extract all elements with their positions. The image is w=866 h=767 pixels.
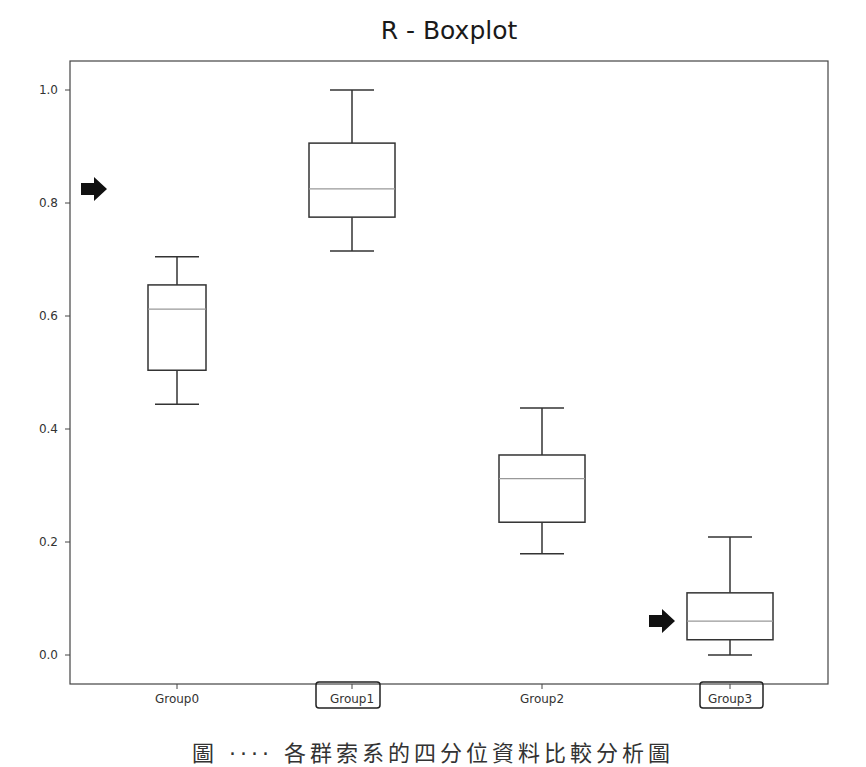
box-group1 (309, 90, 395, 251)
y-tick-label: 0.4 (39, 422, 58, 436)
y-tick-label: 0.0 (39, 648, 58, 662)
y-axis-ticks: 0.00.20.40.60.81.0 (39, 83, 70, 662)
y-tick-label: 0.2 (39, 535, 58, 549)
iqr-box (499, 455, 585, 522)
box-group2 (499, 408, 585, 554)
iqr-box (148, 285, 206, 370)
x-axis-ticks: Group0Group1Group2Group3 (155, 684, 752, 706)
x-tick-label-group3: Group3 (708, 692, 752, 706)
arrow-icon (649, 609, 675, 633)
box-group3 (687, 537, 773, 655)
arrow-icon (81, 177, 107, 201)
plot-axes (70, 61, 828, 684)
y-tick-label: 1.0 (39, 83, 58, 97)
x-tick-label-group1: Group1 (330, 692, 374, 706)
y-tick-label: 0.8 (39, 196, 58, 210)
boxes (148, 90, 773, 655)
iqr-box (687, 593, 773, 640)
box-group0 (148, 257, 206, 404)
iqr-box (309, 143, 395, 217)
y-tick-label: 0.6 (39, 309, 58, 323)
plot-frame (70, 61, 828, 684)
x-tick-label-group2: Group2 (520, 692, 564, 706)
figure-caption: 圖 ‧‧‧‧ 各群索系的四分位資料比較分析圖 (0, 735, 866, 767)
x-tick-label-group0: Group0 (155, 692, 199, 706)
